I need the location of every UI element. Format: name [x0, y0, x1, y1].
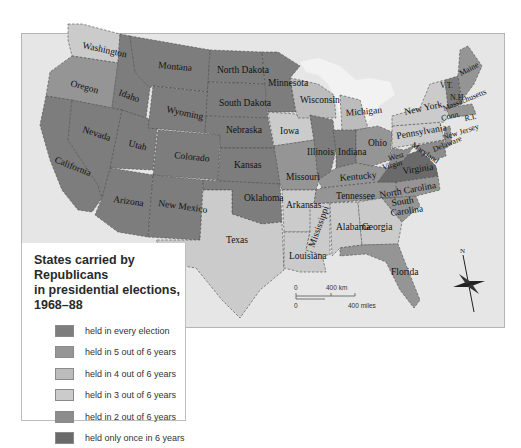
label-south-dakota: South Dakota — [219, 98, 272, 108]
label-vermont: V.T. — [440, 81, 453, 90]
label-north-dakota: North Dakota — [217, 65, 270, 75]
legend-item-four: held in 4 out of 6 years — [34, 363, 185, 385]
label-wisconsin: Wisconsin — [300, 95, 340, 105]
svg-text:0: 0 — [294, 302, 298, 309]
label-new-hampshire: N.H — [450, 93, 464, 102]
legend-swatch — [55, 346, 74, 358]
scale-bar: 0 400 km 0 400 miles — [294, 284, 377, 309]
legend-item-every: held in every election — [34, 320, 185, 342]
legend-swatch — [55, 368, 74, 380]
legend-item-five: held in 5 out of 6 years — [34, 342, 185, 364]
label-louisiana: Louisiana — [289, 251, 327, 261]
label-iowa: Iowa — [280, 126, 300, 136]
label-indiana: Indiana — [338, 147, 367, 157]
legend-item-two: held in 2 out of 6 years — [34, 406, 185, 428]
legend-item-three: held in 3 out of 6 years — [34, 385, 185, 407]
legend-swatch — [55, 411, 74, 423]
label-arkansas: Arkansas — [286, 200, 322, 210]
label-rhode-island: R.I. — [464, 112, 478, 123]
label-michigan: Michigan — [345, 105, 382, 118]
label-tennessee: Tennessee — [336, 191, 375, 201]
label-minnesota: Minnesota — [268, 78, 309, 88]
svg-text:N: N — [460, 247, 465, 255]
label-nebraska: Nebraska — [226, 125, 263, 135]
legend-swatch — [55, 389, 74, 401]
label-georgia: Georgia — [362, 222, 393, 232]
legend-swatch — [55, 325, 74, 337]
label-ohio: Ohio — [368, 138, 387, 148]
legend-title: States carried by Republicans in preside… — [34, 253, 185, 313]
map-legend: States carried by Republicans in preside… — [21, 243, 186, 421]
legend-swatch — [55, 432, 74, 444]
label-texas: Texas — [226, 235, 248, 245]
label-kansas: Kansas — [234, 160, 262, 170]
svg-text:0: 0 — [294, 284, 298, 291]
legend-item-once: held only once in 6 years — [34, 428, 185, 448]
label-missouri: Missouri — [286, 172, 320, 182]
label-oklahoma: Oklahoma — [244, 193, 284, 203]
svg-text:400 miles: 400 miles — [348, 302, 377, 309]
label-illinois: Illinois — [307, 147, 334, 157]
label-florida: Florida — [391, 267, 419, 277]
compass-rose-icon: N — [453, 247, 485, 312]
svg-text:400 km: 400 km — [326, 284, 347, 291]
